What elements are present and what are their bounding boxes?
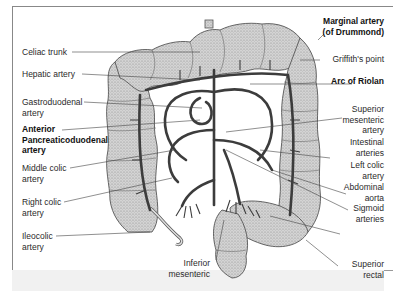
label-left-colic-artery: Left colicartery [350, 160, 384, 181]
label-hepatic-artery: Hepatic artery [22, 69, 75, 80]
arteries [139, 70, 293, 215]
label-ileocolic-artery: Ileocolicartery [22, 231, 53, 252]
label-marginal-artery: Marginal artery(of Drummond) [323, 16, 384, 37]
label-right-colic-artery: Right colicartery [22, 197, 61, 218]
label-celiac-trunk: Celiac trunk [22, 47, 67, 58]
label-griffiths-point: Griffith's point [332, 54, 384, 65]
label-superior-mesenteric-artery: Superiormesentericartery [342, 104, 384, 136]
label-inferior-mesenteric: Inferiormesenteric [160, 258, 210, 279]
label-superior-rectal: Superiorrectal [352, 259, 384, 280]
label-intestinal-arteries: Intestinalarteries [350, 137, 384, 158]
label-anterior-pancreaticoduodenal-artery: AnteriorPancreaticoduodenalartery [22, 124, 108, 156]
label-middle-colic-artery: Middle colicartery [22, 163, 66, 184]
label-gastroduodenal-artery: Gastroduodenalartery [22, 97, 83, 118]
label-sigmoid-arteries: Sigmoidarteries [353, 203, 384, 224]
label-abdominal-aorta: Abdominalaorta [344, 182, 384, 203]
label-arc-of-riolan: Arc of Riolan [331, 76, 384, 87]
